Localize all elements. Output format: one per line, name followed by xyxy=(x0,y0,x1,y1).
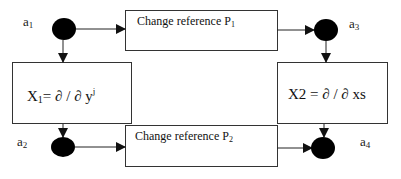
formula-x2: X2 = ∂ / ∂ xs xyxy=(288,86,366,102)
formula-x1-sup: j xyxy=(93,86,96,96)
bottom-box-sub: 2 xyxy=(229,135,233,144)
top-box-sub: 1 xyxy=(231,20,235,29)
left-box-formula: X1= ∂ / ∂ yj xyxy=(27,86,95,105)
label-a4-sub: 4 xyxy=(366,140,371,150)
label-a3-sub: 3 xyxy=(355,22,360,32)
top-box-text: Change reference P1 xyxy=(137,14,235,29)
label-a1-sub: 1 xyxy=(29,20,34,30)
label-a2-sub: 2 xyxy=(23,140,28,150)
bottom-box-text: Change reference P2 xyxy=(135,129,233,144)
node-a4 xyxy=(311,137,335,159)
node-a1 xyxy=(52,18,76,40)
formula-x1-lhs: X xyxy=(27,88,38,104)
formula-x1-rhs: = ∂ / ∂ y xyxy=(43,88,93,104)
top-box-label: Change reference P xyxy=(137,14,231,28)
right-box-formula: X2 = ∂ / ∂ xs xyxy=(288,86,366,103)
node-a2 xyxy=(51,137,75,157)
label-a1: a1 xyxy=(23,14,33,30)
label-a2: a2 xyxy=(17,134,27,150)
bottom-box-label: Change reference P xyxy=(135,129,229,143)
label-a4: a4 xyxy=(360,134,370,150)
label-a3: a3 xyxy=(349,16,359,32)
node-a3 xyxy=(314,19,338,41)
